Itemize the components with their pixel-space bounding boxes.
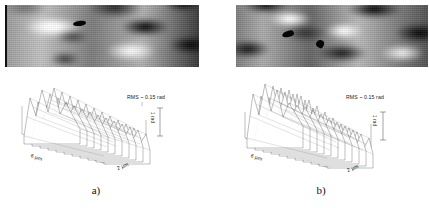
panel-caption-a: a) [0, 184, 203, 196]
interferogram-image-b [236, 5, 428, 67]
surface-mesh-b [215, 72, 429, 184]
panel-b: RMS ~ 0.15 rad 6 µm 2 µm 1 rad b) [215, 0, 429, 208]
z-axis-label-a: 1 rad [150, 112, 155, 123]
figure-container: RMS ~ 0.15 rad 6 µm 2 µm 1 rad a) [0, 0, 429, 208]
image-grain-a [7, 5, 199, 67]
surface-plot-b: RMS ~ 0.15 rad 6 µm 2 µm 1 rad [215, 72, 429, 184]
panel-a: RMS ~ 0.15 rad 6 µm 2 µm 1 rad a) [0, 0, 214, 208]
z-axis-label-b: 1 rad [372, 115, 377, 126]
rms-label-a: RMS ~ 0.15 rad [127, 94, 165, 100]
image-grain-b [236, 5, 428, 67]
rms-label-b: RMS ~ 0.15 rad [346, 94, 384, 100]
interferogram-image-a [5, 5, 199, 67]
surface-plot-a: RMS ~ 0.15 rad 6 µm 2 µm 1 rad [0, 72, 214, 184]
surface-mesh-a [0, 72, 214, 184]
panel-caption-b: b) [214, 184, 428, 196]
